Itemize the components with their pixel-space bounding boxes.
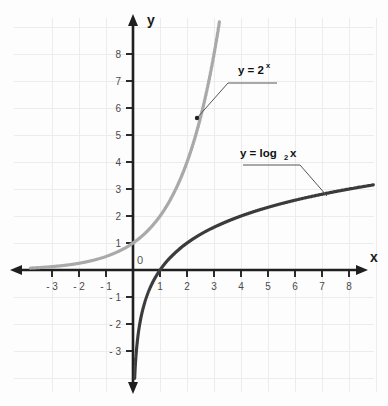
series-label-logarithm-subscript: 2 — [284, 153, 288, 162]
y-tick-label: 4 — [115, 157, 121, 168]
y-tick-label: 3 — [115, 184, 121, 195]
y-tick-label: - 1 — [109, 292, 121, 303]
chart-background — [0, 0, 388, 406]
series-label-logarithm-tail: x — [290, 147, 297, 159]
x-tick-label: 2 — [184, 281, 190, 292]
origin-label: 0 — [137, 254, 143, 266]
x-tick-label: - 1 — [100, 281, 112, 292]
x-tick-label: 4 — [238, 281, 244, 292]
x-axis-label: x — [370, 249, 378, 265]
y-tick-label: - 3 — [109, 346, 121, 357]
function-graph: - 3- 2- 11234567887654321- 1- 2- 3 0 y =… — [0, 0, 388, 406]
x-tick-label: 1 — [157, 281, 163, 292]
y-tick-label: 2 — [115, 211, 121, 222]
chart-container: - 3- 2- 11234567887654321- 1- 2- 3 0 y =… — [0, 0, 388, 406]
series-label-exponential-text: y = 2 — [238, 64, 264, 76]
x-tick-label: 6 — [292, 281, 298, 292]
series-label-logarithm-text: y = log — [240, 147, 277, 159]
y-tick-label: 7 — [115, 76, 121, 87]
y-tick-label: 5 — [115, 130, 121, 141]
x-tick-label: - 3 — [46, 281, 58, 292]
y-tick-label: 8 — [115, 49, 121, 60]
annotation-anchor-dot-exponential — [195, 116, 199, 120]
y-axis-label: y — [147, 12, 155, 28]
y-tick-label: - 2 — [109, 319, 121, 330]
y-tick-label: 1 — [115, 238, 121, 249]
x-tick-label: 8 — [346, 281, 352, 292]
x-tick-label: 5 — [265, 281, 271, 292]
x-tick-label: - 2 — [73, 281, 85, 292]
x-tick-label: 3 — [211, 281, 217, 292]
y-tick-label: 6 — [115, 103, 121, 114]
x-tick-label: 7 — [319, 281, 325, 292]
